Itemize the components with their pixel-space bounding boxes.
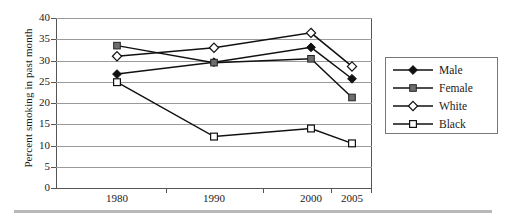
data-point-filled-diamond [113,70,122,79]
y-axis-tick-label: 35 [24,33,50,44]
y-axis-tick-label: 40 [24,12,50,23]
chart-legend: MaleFemaleWhiteBlack [385,57,498,134]
data-point-open-diamond [209,43,218,52]
y-axis-tick-label: 0 [24,182,50,193]
y-axis-tick-label: 5 [24,161,50,172]
data-point-open-square [114,79,121,86]
series-overlay [56,18,372,189]
legend-label: Black [439,118,466,130]
filled-square-icon [391,81,435,95]
legend-label: White [439,100,467,112]
data-point-open-square [349,140,356,147]
bottom-divider [14,210,492,213]
data-point-filled-square [410,84,417,91]
x-axis-tick-label: 1990 [189,192,239,204]
data-point-open-square [211,133,218,140]
data-point-filled-square [211,59,218,66]
x-axis-tick-mark [263,188,264,193]
x-axis-tick-label: 2005 [327,192,377,204]
data-point-open-diamond [408,101,417,110]
open-diamond-icon [391,99,435,113]
open-square-icon [391,117,435,131]
y-axis-tick-label: 25 [24,76,50,87]
legend-item-female[interactable]: Female [386,78,499,97]
data-point-filled-square [308,56,315,63]
line-chart-figure: Percent smoking in past month 0510152025… [0,0,505,218]
y-axis-tick-label: 30 [24,55,50,66]
series-line-black [117,82,352,143]
y-axis-tick-label: 20 [24,97,50,108]
legend-label: Male [439,64,463,76]
x-axis-tick-label: 1980 [92,192,142,204]
y-axis-tick-label: 15 [24,118,50,129]
data-point-filled-diamond [409,65,418,74]
data-point-filled-square [114,42,121,49]
legend-label: Female [439,82,473,94]
legend-item-black[interactable]: Black [386,114,499,133]
data-point-open-diamond [112,52,121,61]
filled-diamond-icon [391,63,435,77]
data-point-open-square [308,125,315,132]
legend-item-white[interactable]: White [386,96,499,115]
y-axis-tick-label: 10 [24,140,50,151]
x-axis-tick-mark [166,188,167,193]
data-point-open-square [410,120,417,127]
plot-area [56,18,372,188]
data-point-filled-square [349,94,356,101]
legend-item-male[interactable]: Male [386,60,499,79]
